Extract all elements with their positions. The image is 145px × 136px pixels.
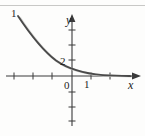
curve-endpoint-label: 1 <box>11 8 17 19</box>
curve-shadow <box>20 18 131 76</box>
exponential-decay-curve <box>18 16 131 76</box>
plot-area <box>0 0 145 136</box>
x-tick-label-1: 1 <box>84 79 90 90</box>
y-tick-label-2: 2 <box>60 56 66 67</box>
y-axis-label: y <box>66 14 71 26</box>
origin-tick-label: 0 <box>64 80 70 91</box>
x-axis-label: x <box>128 79 133 91</box>
graph-figure: y x 0 1 2 1 <box>0 0 145 136</box>
